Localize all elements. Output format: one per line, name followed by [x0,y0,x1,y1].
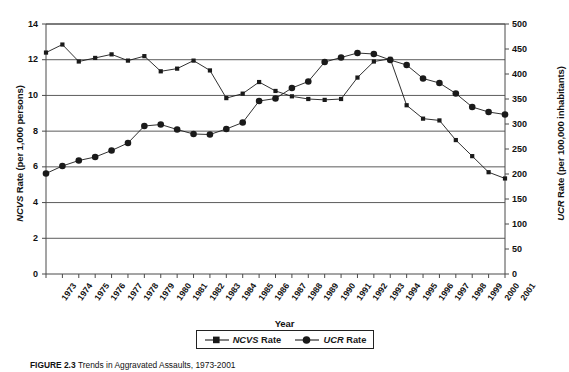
data-point-marker [190,131,197,138]
legend-label-ncvs-rest: Rate [258,335,281,345]
data-point-marker [224,96,228,100]
data-point-marker [502,111,509,118]
x-axis-title: Year [0,318,569,329]
data-point-marker [141,123,148,130]
data-point-marker [60,42,64,46]
legend-label-ucr-italic: UCR [323,335,343,345]
data-point-marker [125,140,132,147]
data-point-marker [371,51,378,58]
data-series-group [43,42,509,180]
data-point-marker [405,103,409,107]
data-point-marker [273,89,277,93]
data-point-marker [207,131,214,138]
data-point-marker [44,50,48,54]
data-point-marker [289,85,296,92]
y-axis-left-tick-label: 4 [12,197,38,207]
y-axis-right-tick-label: 300 [512,119,542,129]
data-point-marker [239,119,246,126]
y-axis-right-tick-label: 400 [512,69,542,79]
data-point-marker [321,59,328,66]
data-point-marker [503,176,507,180]
data-point-marker [208,68,212,72]
figure-container: NCVS Rate (per 1,000 persons) UCR Rate (… [0,0,569,372]
data-point-marker [126,59,130,63]
data-point-marker [306,97,310,101]
chart-legend: NCVS Rate UCR Rate [196,330,374,349]
data-point-marker [403,62,410,69]
data-point-marker [421,117,425,121]
data-point-marker [257,80,261,84]
data-point-marker [436,80,443,87]
y-axis-right-tick-label: 250 [512,144,542,154]
data-point-marker [339,97,343,101]
data-point-marker [142,54,146,58]
data-point-marker [469,104,476,111]
y-axis-left-tick-label: 0 [12,269,38,279]
data-point-marker [453,90,460,97]
data-point-marker [109,52,113,56]
data-point-marker [272,95,279,102]
y-axis-right-title: UCR Rate (per 100,000 inhabitants) [555,38,566,250]
data-point-marker [256,98,263,105]
y-axis-right-tick-label: 100 [512,219,542,229]
legend-swatch-ncvs [204,335,230,345]
data-point-marker [355,75,359,79]
data-point-marker [157,121,164,128]
legend-label-ucr: UCR Rate [323,335,366,345]
series-line-ucr-rate [46,53,505,174]
data-point-marker [175,67,179,71]
data-point-marker [174,126,181,133]
y-axis-left-title: NCVS Rate (per 1,000 persons) [14,59,25,249]
y-axis-right-tick-label: 0 [512,269,542,279]
data-point-marker [470,154,474,158]
y-axis-left-tick-label: 2 [12,233,38,243]
y-axis-left-title-rest: Rate (per 1,000 persons) [14,85,25,196]
y-axis-left-tick-label: 8 [12,126,38,136]
y-axis-left-tick-label: 10 [12,90,38,100]
y-axis-right-tick-label: 150 [512,194,542,204]
data-point-marker [387,57,394,64]
data-point-marker [485,109,492,116]
y-axis-left-tick-label: 14 [12,19,38,29]
data-point-marker [372,59,376,63]
legend-label-ncvs: NCVS Rate [233,335,282,345]
y-axis-right-tick-label: 450 [512,44,542,54]
legend-label-ucr-rest: Rate [344,335,367,345]
gridlines-group [46,24,505,238]
data-point-marker [75,157,82,164]
figure-caption: FIGURE 2.3 Trends in Aggravated Assaults… [30,360,235,370]
data-point-marker [77,59,81,63]
data-point-marker [191,59,195,63]
data-point-marker [93,56,97,60]
data-point-marker [241,92,245,96]
data-point-marker [290,94,294,98]
data-point-marker [323,98,327,102]
data-point-marker [305,78,312,85]
chart-plot-svg [0,0,569,372]
legend-label-ncvs-italic: NCVS [233,335,259,345]
legend-swatch-ucr [294,335,320,345]
data-point-marker [159,69,163,73]
data-point-marker [108,147,115,154]
data-point-marker [437,118,441,122]
data-point-marker [223,126,230,133]
series-line-ncvs-rate [46,45,505,179]
y-axis-left-tick-label: 6 [12,161,38,171]
y-axis-right-tick-label: 200 [512,169,542,179]
figure-caption-label: FIGURE 2.3 [30,360,76,370]
data-point-marker [487,170,491,174]
data-point-marker [43,170,50,177]
legend-item-ncvs: NCVS Rate [204,335,282,345]
y-axis-right-tick-label: 500 [512,19,542,29]
data-point-marker [454,138,458,142]
data-point-marker [420,75,427,82]
y-axis-left-tick-label: 12 [12,54,38,64]
data-point-marker [338,54,345,61]
y-axis-right-title-rest: Rate (per 100,000 inhabitants) [555,66,566,200]
legend-item-ucr: UCR Rate [294,335,366,345]
y-axis-right-tick-label: 350 [512,94,542,104]
y-axis-right-tick-label: 50 [512,244,542,254]
data-point-marker [59,163,66,170]
figure-caption-text: Trends in Aggravated Assaults, 1973-2001 [78,360,236,370]
y-axis-right-title-italic: UCR [555,200,566,220]
